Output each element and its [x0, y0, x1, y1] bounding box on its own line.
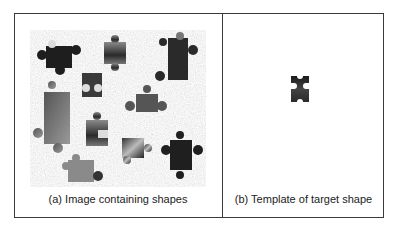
caption-a: (a) Image containing shapes — [14, 193, 222, 205]
template-shape — [289, 73, 311, 105]
puzzle-piece-4 — [82, 73, 102, 97]
panel-divider — [222, 13, 223, 218]
caption-b: (b) Template of target shape — [223, 193, 384, 205]
scene-image — [30, 30, 206, 187]
